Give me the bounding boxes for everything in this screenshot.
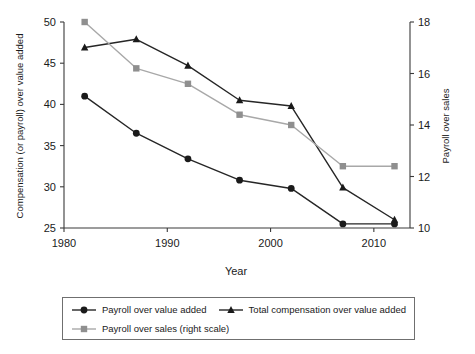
y-axis-left-tick-label: 25 [44,222,56,234]
legend-row: Payroll over value addedTotal compensati… [71,304,406,323]
data-point-circle [81,93,88,100]
chart-canvas: 25303540455010121416181980199020002010 C… [0,0,475,354]
y-axis-left-tick-label: 30 [44,181,56,193]
chart-legend: Payroll over value addedTotal compensati… [62,297,415,340]
legend-item-circle[interactable]: Payroll over value added [71,304,218,316]
x-axis-tick-label: 1980 [52,237,76,249]
series-square [81,19,397,170]
data-point-circle [185,155,192,162]
data-point-square [236,112,242,118]
data-point-circle [288,185,295,192]
y-axis-right-title: Payroll over sales [440,88,451,163]
tick-labels-layer: 25303540455010121416181980199020002010 [44,16,431,249]
x-axis-tick-label: 1990 [155,237,179,249]
y-axis-right-tick-label: 12 [418,171,430,183]
y-axis-left-title: Compensation (or payroll) over value add… [14,34,25,219]
y-axis-right-tick-label: 18 [418,16,430,28]
data-point-triangle [391,216,398,223]
y-axis-left-tick-label: 45 [44,57,56,69]
legend-item-label: Total compensation over value added [249,304,406,316]
x-axis-tick-label: 2010 [362,237,386,249]
data-point-square [391,163,397,169]
y-axis-right-tick-label: 14 [418,119,430,131]
legend-marker-triangle-icon [218,304,244,316]
legend-marker-square-icon [71,323,97,335]
data-point-square [81,19,87,25]
y-axis-left-tick-label: 50 [44,16,56,28]
ticks-layer [60,22,414,232]
series-line [85,22,395,166]
data-point-circle [236,177,243,184]
y-axis-right-tick-label: 16 [418,68,430,80]
legend-marker-circle-icon [71,304,97,316]
series-triangle [81,35,398,223]
legend-row: Payroll over sales (right scale) [71,323,406,342]
legend-item-label: Payroll over value added [102,304,207,316]
x-axis-tick-label: 2000 [258,237,282,249]
y-axis-left-tick-label: 35 [44,140,56,152]
legend-item-square[interactable]: Payroll over sales (right scale) [71,323,256,335]
data-point-square [133,65,139,71]
data-point-circle [133,130,140,137]
data-point-square [288,122,294,128]
series-layer [81,19,398,227]
x-axis-title: Year [225,265,248,277]
data-point-triangle [236,96,243,103]
data-point-square [185,81,191,87]
data-point-square [340,163,346,169]
legend-item-label: Payroll over sales (right scale) [102,323,229,335]
legend-grid: Payroll over value addedTotal compensati… [63,298,414,339]
y-axis-right-tick-label: 10 [418,222,430,234]
y-axis-left-tick-label: 40 [44,98,56,110]
legend-item-triangle[interactable]: Total compensation over value added [218,304,406,316]
data-point-circle [339,220,346,227]
data-point-triangle [133,35,140,42]
